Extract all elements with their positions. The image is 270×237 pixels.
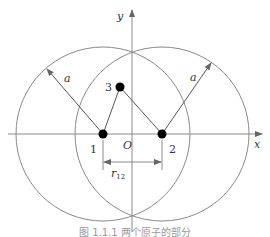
two-atom-diagram: x y O a a r12 1 2 3	[0, 0, 270, 237]
atom-2-dot	[158, 130, 167, 139]
atom-2-label: 2	[169, 143, 176, 156]
x-axis-label: x	[254, 138, 261, 151]
origin-label: O	[123, 139, 132, 152]
radius-label-atom-2: a	[190, 71, 197, 84]
atom-1-label: 1	[90, 143, 97, 156]
distance-label-r12: r12	[111, 167, 125, 181]
bond-1-3	[103, 87, 120, 134]
y-axis-label: y	[116, 10, 124, 23]
atom-3-dot	[116, 83, 125, 92]
bond-3-2	[120, 87, 162, 134]
radius-arrow-atom-2	[162, 63, 211, 134]
radius-label-atom-1: a	[64, 72, 71, 85]
atom-1-dot	[99, 130, 108, 139]
figure-caption: 图 1.1.1 两个原子的部分	[0, 226, 270, 237]
atom-3-label: 3	[105, 81, 112, 94]
